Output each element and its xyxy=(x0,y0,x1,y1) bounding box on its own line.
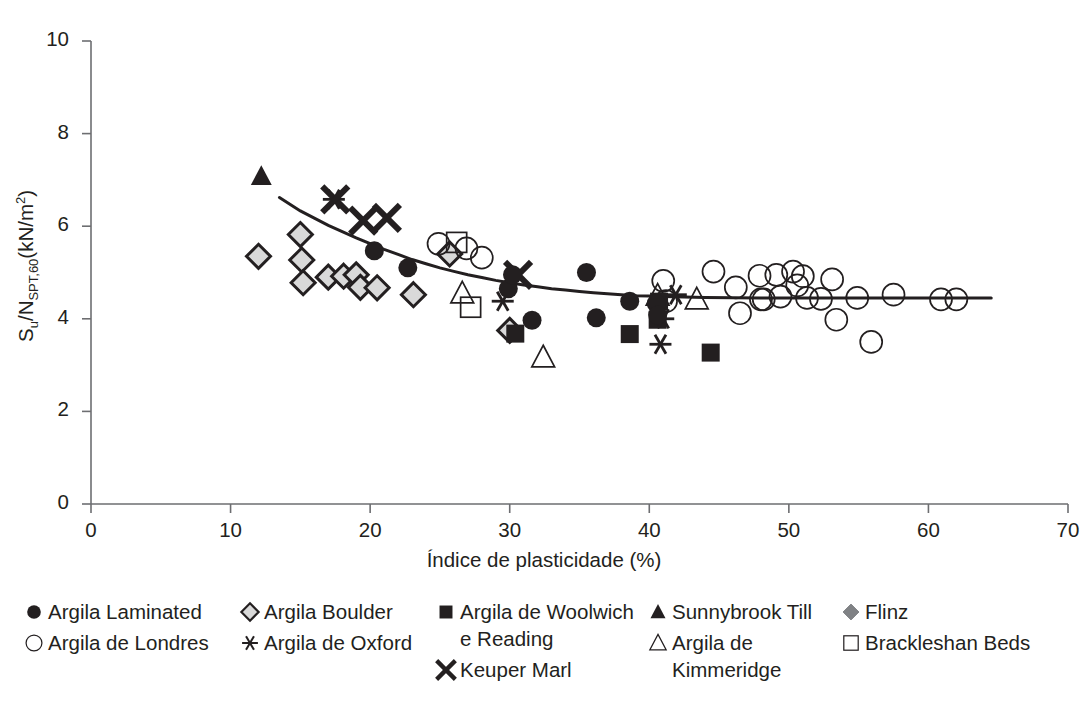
marker-open-circle xyxy=(765,264,787,286)
thin-asterisk-glyph xyxy=(238,631,262,655)
filled-triangle-icon xyxy=(646,598,672,625)
marker-filled-square xyxy=(702,344,720,362)
data-point xyxy=(288,223,312,247)
data-point xyxy=(241,603,258,620)
marker-open-circle xyxy=(860,331,882,353)
data-point xyxy=(401,283,425,307)
legend: Argila LaminatedArgila de LondresArgila … xyxy=(0,598,1088,705)
data-point xyxy=(649,335,671,354)
data-point xyxy=(246,244,270,268)
legend-entry[interactable]: Argila de Kimmeridge xyxy=(646,629,839,683)
data-point xyxy=(620,292,639,311)
legend-entry[interactable]: Argila de Woolwich e Reading xyxy=(434,598,646,652)
legend-label: Argila de Kimmeridge xyxy=(672,629,781,683)
y-axis-tick-label: 10 xyxy=(23,27,69,51)
marker-filled-triangle xyxy=(650,604,665,618)
series-gray-diamond xyxy=(246,223,521,343)
open-circle-icon xyxy=(22,629,48,656)
legend-label: Argila Laminated xyxy=(48,598,202,625)
filled-square-glyph xyxy=(434,600,458,624)
legend-label: Keuper Marl xyxy=(460,656,572,683)
dark-diamond-icon xyxy=(839,598,865,625)
marker-filled-circle xyxy=(365,241,384,260)
data-point xyxy=(350,208,376,234)
y-axis-tick-label: 6 xyxy=(23,212,69,236)
marker-gray-diamond xyxy=(241,603,258,620)
data-point xyxy=(843,604,859,620)
gray-diamond-glyph xyxy=(238,600,262,624)
legend-entry[interactable]: Argila Boulder xyxy=(238,598,434,625)
x-axis-tick-label: 30 xyxy=(480,518,540,542)
legend-column: FlinzBrackleshan Beds xyxy=(839,598,1079,656)
data-point xyxy=(587,308,606,327)
x-axis-tick-label: 50 xyxy=(759,518,819,542)
legend-column: Argila BoulderArgila de Oxford xyxy=(238,598,434,656)
x-axis-tick-label: 40 xyxy=(619,518,679,542)
legend-label: Argila de Londres xyxy=(48,629,209,656)
data-point xyxy=(27,605,41,619)
legend-entry[interactable]: Sunnybrook Till xyxy=(646,598,839,625)
data-point xyxy=(860,331,882,353)
marker-open-circle xyxy=(471,247,493,269)
data-point xyxy=(702,261,724,283)
legend-entry[interactable]: Argila de Oxford xyxy=(238,629,434,656)
legend-entry[interactable]: Flinz xyxy=(839,598,1079,625)
legend-entry[interactable]: Argila de Londres xyxy=(22,629,238,656)
data-point xyxy=(844,635,858,649)
bold-x-icon xyxy=(434,656,460,683)
data-point xyxy=(665,285,687,304)
marker-open-triangle xyxy=(650,634,666,650)
legend-entry[interactable]: Keuper Marl xyxy=(434,656,646,683)
data-point xyxy=(26,635,42,651)
marker-open-circle xyxy=(883,284,905,306)
marker-open-triangle xyxy=(532,345,555,367)
scatter-plot-figure: Índice de plasticidade (%) Su/NSPT,60(kN… xyxy=(0,0,1088,705)
marker-open-circle xyxy=(725,276,747,298)
marker-gray-diamond xyxy=(290,248,314,272)
marker-filled-circle xyxy=(620,292,639,311)
marker-open-circle xyxy=(702,261,724,283)
series-group xyxy=(246,165,967,367)
filled-triangle-glyph xyxy=(646,600,670,624)
data-point xyxy=(471,247,493,269)
series-filled-triangle xyxy=(251,165,272,185)
marker-open-square xyxy=(844,635,858,649)
marker-open-triangle xyxy=(451,281,474,303)
marker-filled-circle xyxy=(587,308,606,327)
marker-filled-circle xyxy=(648,306,667,325)
legend-column: Argila LaminatedArgila de Londres xyxy=(22,598,238,656)
y-axis-tick-label: 2 xyxy=(23,397,69,421)
marker-gray-diamond xyxy=(401,283,425,307)
thin-asterisk-icon xyxy=(238,629,264,656)
data-point xyxy=(461,297,481,317)
marker-gray-diamond xyxy=(288,223,312,247)
data-point xyxy=(883,284,905,306)
axes-group xyxy=(82,41,1068,513)
legend-entry[interactable]: Brackleshan Beds xyxy=(839,629,1079,656)
marker-filled-circle xyxy=(503,265,522,284)
marker-filled-circle xyxy=(577,263,596,282)
marker-filled-triangle xyxy=(251,165,272,185)
marker-filled-square xyxy=(621,325,639,343)
data-point xyxy=(398,258,417,277)
x-axis-tick-label: 70 xyxy=(1038,518,1088,542)
x-axis-tick-label: 60 xyxy=(898,518,958,542)
y-axis-tick-label: 0 xyxy=(23,490,69,514)
marker-dark-diamond xyxy=(843,604,859,620)
data-point xyxy=(437,660,456,679)
data-point xyxy=(821,268,843,290)
data-point xyxy=(702,344,720,362)
filled-square-icon xyxy=(434,598,460,625)
legend-entry[interactable]: Argila Laminated xyxy=(22,598,238,625)
open-triangle-icon xyxy=(646,629,672,656)
data-point xyxy=(650,634,666,650)
y-axis-tick-label: 4 xyxy=(23,305,69,329)
filled-circle-icon xyxy=(22,598,48,625)
legend-label: Brackleshan Beds xyxy=(865,629,1030,656)
marker-filled-circle xyxy=(27,605,41,619)
data-point xyxy=(506,325,524,343)
legend-label: Argila de Oxford xyxy=(264,629,412,656)
legend-column: Argila de Woolwich e ReadingKeuper Marl xyxy=(434,598,646,683)
data-point xyxy=(374,205,400,231)
data-point xyxy=(648,306,667,325)
